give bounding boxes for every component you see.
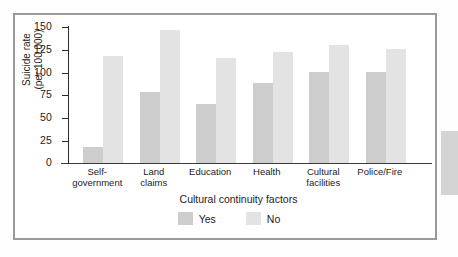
bar-groups — [69, 26, 408, 163]
bar-yes-cultural-facilities — [309, 72, 329, 163]
bar-no-land-claims — [160, 30, 180, 163]
x-tick-label-line: Health — [239, 166, 296, 177]
y-tick-label-100: 100 — [6, 66, 52, 78]
bar-no-education — [216, 58, 236, 163]
y-tick-label-25: 25 — [6, 134, 52, 146]
x-tick-label-land-claims: Land claims — [126, 166, 183, 196]
legend-item-yes: Yes — [178, 212, 216, 225]
bar-yes-self-government — [83, 147, 103, 163]
y-axis-title-line1: Suicide rate — [21, 0, 33, 120]
y-tick-label-75: 75 — [6, 88, 52, 100]
bar-group-land-claims — [126, 26, 183, 163]
y-tick-label-150: 150 — [6, 20, 52, 32]
x-tick-label-line: Land — [126, 166, 183, 177]
bar-group-police-fire — [352, 26, 409, 163]
bar-no-self-government — [103, 56, 123, 163]
bar-group-self-government — [69, 26, 126, 163]
y-tick-label-125: 125 — [6, 43, 52, 55]
x-axis-line — [61, 163, 432, 164]
x-tick-label-line: Police/Fire — [352, 166, 409, 177]
bar-yes-police-fire — [366, 72, 386, 163]
bar-yes-health — [253, 83, 273, 163]
x-axis-tick-labels: Self-government Land claims Education He… — [69, 166, 408, 196]
y-axis-title: Suicide rate (per 100,000) — [21, 0, 44, 120]
x-tick-label-line: Cultural — [295, 166, 352, 177]
bar-yes-land-claims — [140, 92, 160, 163]
x-tick-label-line: facilities — [295, 177, 352, 188]
bar-no-police-fire — [386, 49, 406, 163]
x-tick-label-cultural-facilities: Cultural facilities — [295, 166, 352, 196]
legend-label-yes: Yes — [199, 213, 216, 225]
bar-group-cultural-facilities — [295, 26, 352, 163]
x-tick-label-line: claims — [126, 177, 183, 188]
bar-yes-education — [196, 104, 216, 163]
figure-container: Suicide rate (per 100,000) 150 125 100 7… — [0, 0, 458, 257]
bar-group-health — [239, 26, 296, 163]
cropped-edge-bar — [441, 131, 458, 195]
y-tick-label-0: 0 — [6, 156, 52, 168]
bar-group-education — [182, 26, 239, 163]
bar-no-health — [273, 52, 293, 163]
x-tick-label-line: Self-government — [69, 166, 126, 188]
legend-label-no: No — [267, 213, 280, 225]
y-axis-title-line2: (per 100,000) — [32, 0, 44, 120]
x-tick-label-line: Education — [182, 166, 239, 177]
x-tick-label-police-fire: Police/Fire — [352, 166, 409, 196]
legend-swatch-yes — [178, 212, 193, 225]
x-tick-label-health: Health — [239, 166, 296, 196]
y-tick-label-50: 50 — [6, 111, 52, 123]
bar-no-cultural-facilities — [329, 45, 349, 163]
x-axis-title: Cultural continuity factors — [69, 193, 408, 205]
legend-swatch-no — [246, 212, 261, 225]
legend-item-no: No — [246, 212, 280, 225]
x-tick-label-self-government: Self-government — [69, 166, 126, 196]
x-tick-label-education: Education — [182, 166, 239, 196]
chart-legend: Yes No — [0, 212, 458, 225]
